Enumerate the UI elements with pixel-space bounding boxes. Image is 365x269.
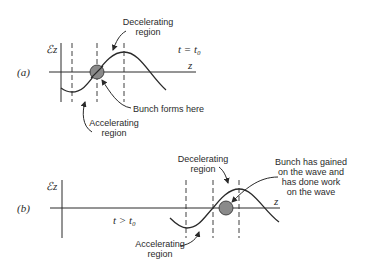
panel-a-accel-label: region bbox=[101, 128, 126, 138]
panel-a-time-label: t = t₀ bbox=[178, 43, 201, 55]
panel-a-z-label: z bbox=[187, 59, 193, 71]
panel-b-accel-label: Accelerating bbox=[135, 239, 185, 249]
panel-b-bunch-label: Bunch has gained bbox=[275, 157, 347, 167]
panel-b-bunch-label: on the wave bbox=[287, 187, 336, 197]
panel-b-tag: (b) bbox=[17, 202, 30, 215]
panel-a-bunch-arrow bbox=[102, 80, 131, 108]
panel-a: (a) ℰz z t = t₀ Decelerating region Bunc… bbox=[17, 17, 204, 138]
panel-a-y-label: ℰz bbox=[46, 43, 58, 55]
panel-b: (b) ℰz z t > t₀ Decelerating region Bunc… bbox=[17, 154, 347, 259]
panel-a-decel-label: region bbox=[135, 27, 160, 37]
panel-b-y-label: ℰz bbox=[46, 180, 58, 192]
panel-a-bunch-label: Bunch forms here bbox=[133, 104, 204, 114]
panel-b-time-label: t > t₀ bbox=[113, 214, 136, 226]
panel-b-decel-label: Decelerating bbox=[178, 154, 229, 164]
panel-b-accel-label: region bbox=[147, 249, 172, 259]
panel-b-decel-arrow bbox=[219, 167, 228, 183]
panel-b-bunch bbox=[219, 201, 233, 215]
panel-a-tag: (a) bbox=[17, 66, 30, 79]
diagram-canvas: (a) ℰz z t = t₀ Decelerating region Bunc… bbox=[0, 0, 365, 269]
panel-a-accel-label: Accelerating bbox=[89, 118, 139, 128]
panel-a-decel-label: Decelerating bbox=[123, 17, 174, 27]
panel-b-bunch-label: has done work bbox=[282, 177, 341, 187]
panel-b-decel-label: region bbox=[190, 164, 215, 174]
panel-b-z-label: z bbox=[273, 195, 279, 207]
panel-b-bunch-label: on the wave and bbox=[278, 167, 344, 177]
